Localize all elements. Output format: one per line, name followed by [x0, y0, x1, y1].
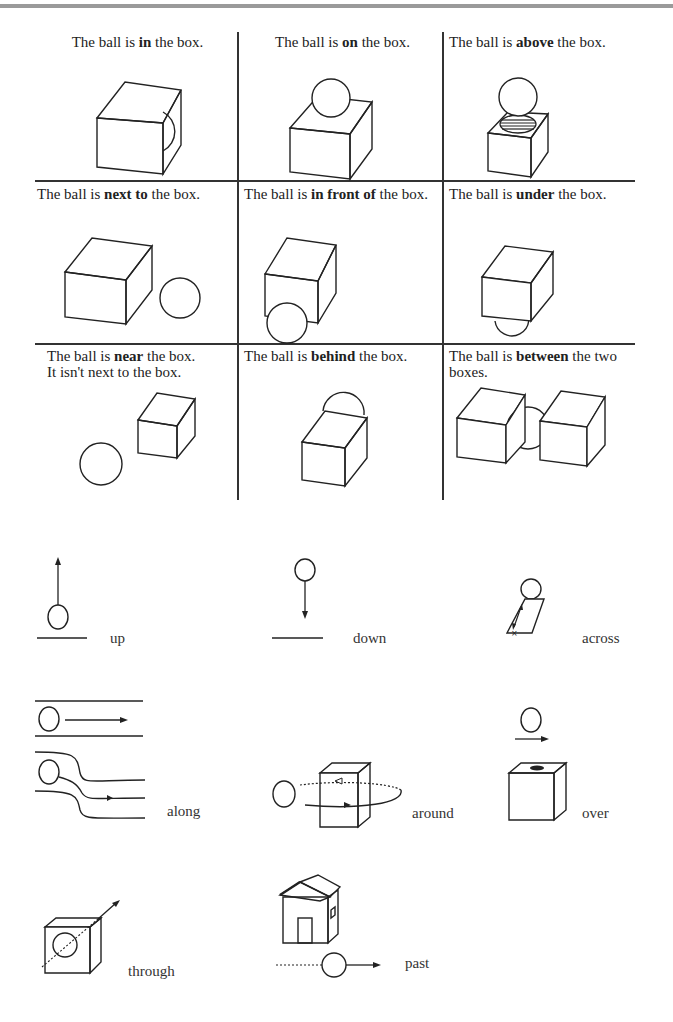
label-past: past [405, 955, 429, 972]
along-illustration [30, 695, 160, 825]
ball-behind-box-illustration [240, 348, 445, 498]
cell-behind: The ball is behind the box. [240, 348, 445, 511]
ball-near-box-illustration [35, 348, 240, 498]
label-up: up [110, 630, 125, 647]
ball-between-boxes-illustration [445, 348, 650, 498]
label-across: across [582, 630, 620, 647]
up-illustration [30, 555, 120, 645]
past-illustration [270, 870, 390, 980]
preposition-grid: The ball is in the box. The ball is on t… [35, 0, 635, 505]
cell-between: The ball is between the two boxes. [445, 348, 650, 511]
across-illustration: × [420, 555, 510, 645]
over-illustration [420, 705, 550, 835]
around-illustration [220, 755, 400, 835]
cell-next-to: The ball is next to the box. [35, 186, 240, 349]
label-along: along [167, 803, 200, 820]
cell-on: The ball is on the box. [240, 34, 445, 197]
cell-near: The ball is near the box. It isn't next … [35, 348, 240, 511]
cell-in-front-of: The ball is in front of the box. [240, 186, 445, 349]
ball-in-box-illustration [35, 34, 240, 184]
svg-text:×: × [511, 629, 518, 638]
through-illustration [30, 895, 130, 995]
ball-on-box-illustration [240, 34, 445, 184]
ball-above-box-illustration [445, 34, 650, 184]
label-down: down [353, 630, 386, 647]
down-illustration [220, 555, 310, 645]
label-through: through [128, 963, 175, 980]
cell-in: The ball is in the box. [35, 34, 240, 197]
cell-above: The ball is above the box. [445, 34, 650, 197]
ball-under-box-illustration [445, 186, 650, 336]
label-over: over [582, 805, 609, 822]
ball-next-to-box-illustration [35, 186, 240, 336]
cell-under: The ball is under the box. [445, 186, 650, 349]
ball-in-front-of-box-illustration [240, 186, 445, 336]
